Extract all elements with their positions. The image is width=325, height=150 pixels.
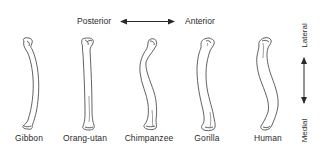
medial-label: Medial xyxy=(300,117,309,145)
chimpanzee-clavicle-icon xyxy=(140,39,157,130)
specimen-label-chimpanzee: Chimpanzee xyxy=(125,133,174,143)
anterior-label: Anterior xyxy=(185,16,215,26)
specimen-label-gorilla: Gorilla xyxy=(194,133,219,143)
gorilla-clavicle-icon xyxy=(197,38,215,131)
diagram-drawing xyxy=(0,0,325,150)
gibbon-clavicle-icon xyxy=(23,38,39,130)
specimen-label-human: Human xyxy=(254,133,282,143)
human-clavicle-icon xyxy=(257,38,278,130)
orangutan-clavicle-icon xyxy=(82,38,95,130)
specimen-label-gibbon: Gibbon xyxy=(15,133,43,143)
specimen-label-orangutan: Orang-utan xyxy=(63,133,107,143)
clavicle-diagram: Posterior Anterior Lateral Medial Gibbon… xyxy=(0,0,325,150)
lateral-label: Lateral xyxy=(300,22,309,50)
posterior-label: Posterior xyxy=(77,16,111,26)
